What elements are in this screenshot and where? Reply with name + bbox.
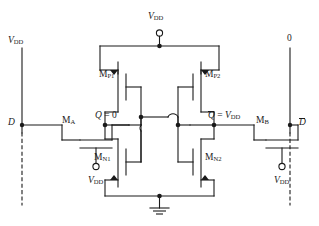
label-nmos-left-MN1: MN1 [94,153,111,163]
label-nmos-right-MN2: MN2 [205,153,222,163]
top-supply-terminal [156,30,162,36]
top-supply-junction-dot [157,44,162,49]
label-pmos-left-MP1: MP1 [99,70,114,80]
label-supply-left: VDD [8,36,23,46]
access-transistor-left-MA [22,125,129,163]
cross-couple-q-to-right-gates [129,87,141,162]
label-pass-right-MB: MB [256,116,269,126]
wire-hop-left [140,125,141,131]
label-supply-top: VDD [148,12,163,22]
label-wordline-right: VDD [274,176,289,186]
cross-link-dot-right [176,123,181,128]
nmos-left-MN1 [105,125,160,196]
access-transistor-right-MB [214,125,298,163]
figure-canvas: VDD VDD 0 D D MA MB MP1 MP2 MN1 MN2 VDD … [0,0,319,226]
label-node-q: Q = 0 [95,111,117,121]
overbar-dbar [299,118,305,119]
nmos-left-source-arrow [110,175,118,180]
label-node-qbar: Q = VDD [208,111,240,121]
node-q-dot [103,123,108,128]
label-bitline-right: D [299,118,306,128]
label-pmos-right-MP2: MP2 [205,70,220,80]
cross-couple-link-wire [141,114,178,125]
cross-link-dot-left [139,115,144,120]
wordline-right-terminal [279,163,285,169]
label-pass-left-MA: MA [62,116,75,126]
label-bitline-left: D [8,118,15,128]
ground-symbol [150,196,169,214]
wordline-left-terminal [93,163,99,169]
circuit-schematic-drawing [0,0,319,226]
overbar-qbar [208,111,214,112]
ground-junction-dot [157,194,162,199]
nmos-right-source-arrow [201,175,209,180]
right-bitline-junction-dot [288,123,292,127]
label-supply-right-value: 0 [287,34,292,44]
label-wordline-left: VDD [88,176,103,186]
